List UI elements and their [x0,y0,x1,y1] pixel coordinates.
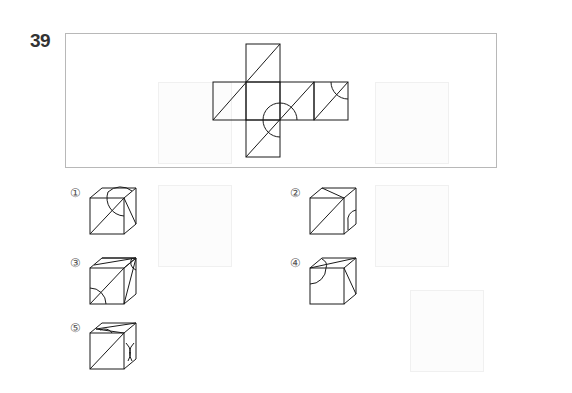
cube-drawing-2 [290,186,370,246]
cube-drawing-5 [70,321,150,381]
answer-option-3[interactable]: ③ [70,256,150,316]
cube-drawing-1 [70,186,150,246]
answer-option-1[interactable]: ① [70,186,150,246]
answer-option-2[interactable]: ② [290,186,370,246]
cube-drawing-4 [290,256,370,316]
cube-drawing-3 [70,256,150,316]
answer-option-4[interactable]: ④ [290,256,370,316]
answer-option-5[interactable]: ⑤ [70,321,150,381]
